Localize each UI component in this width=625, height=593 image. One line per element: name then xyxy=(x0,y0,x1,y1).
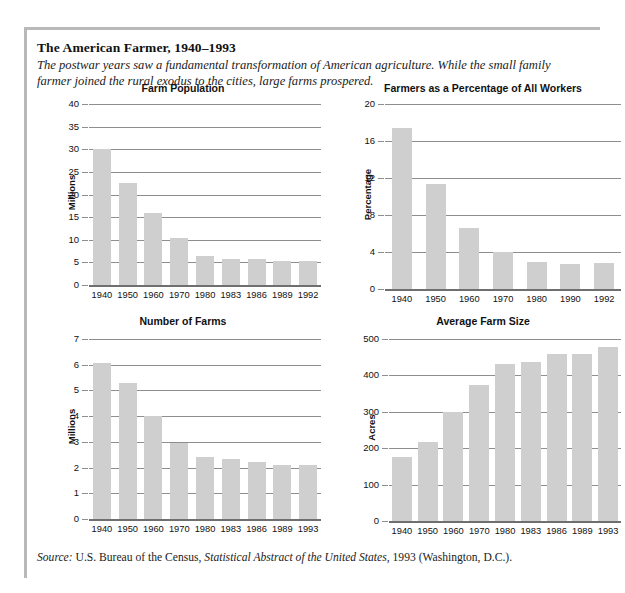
gridline xyxy=(385,141,621,142)
y-axis-tick-label: 10 xyxy=(43,235,79,245)
y-axis-tick-label: 100 xyxy=(343,480,379,490)
y-axis-tick xyxy=(82,217,88,218)
y-axis-tick xyxy=(382,448,388,449)
bar xyxy=(93,363,111,519)
y-axis-tick xyxy=(82,519,88,520)
bar xyxy=(521,362,541,521)
bar xyxy=(493,252,513,289)
y-axis-tick-label: 0 xyxy=(43,514,79,524)
bar xyxy=(248,462,266,519)
chart-average-farm-size: Average Farm Size01002003004005001940195… xyxy=(333,315,625,545)
y-axis-tick xyxy=(378,289,384,290)
bar xyxy=(273,465,291,519)
y-axis-tick xyxy=(82,127,88,128)
source-label: Source: xyxy=(37,551,73,564)
gridline xyxy=(89,127,321,128)
y-axis-tick-label: 20 xyxy=(339,99,375,109)
y-axis-tick xyxy=(82,365,88,366)
source-publisher: U.S. Bureau of the Census, xyxy=(76,551,202,564)
y-axis-tick xyxy=(82,416,88,417)
bar xyxy=(459,228,479,289)
y-axis-tick xyxy=(82,149,88,150)
chart-farm-population: Farm Population0510152025303540194019501… xyxy=(33,82,333,312)
y-axis-tick-label: 35 xyxy=(43,122,79,132)
chart-number-of-farms: Number of Farms0123456719401950196019701… xyxy=(33,315,333,545)
bar xyxy=(443,412,463,521)
bar xyxy=(418,442,438,521)
plot-area: 0100200300400500194019501960197019801983… xyxy=(389,339,621,521)
y-axis-tick xyxy=(378,252,384,253)
y-axis-tick xyxy=(82,390,88,391)
y-axis-tick xyxy=(82,468,88,469)
chart-title: Farmers as a Percentage of All Workers xyxy=(333,82,625,94)
x-axis-line xyxy=(89,519,321,521)
gridline xyxy=(385,215,621,216)
y-axis-tick xyxy=(378,104,384,105)
y-axis-tick-label: 1 xyxy=(43,488,79,498)
y-axis-tick-label: 0 xyxy=(43,280,79,290)
y-axis-tick xyxy=(82,104,88,105)
chart-title: Number of Farms xyxy=(33,315,333,327)
gridline xyxy=(389,339,621,340)
y-axis-tick xyxy=(378,141,384,142)
y-axis-tick xyxy=(82,285,88,286)
bar xyxy=(392,457,412,521)
bar xyxy=(273,261,291,285)
y-axis-tick-label: 400 xyxy=(343,370,379,380)
source-note: Source: U.S. Bureau of the Census, Stati… xyxy=(37,551,512,564)
bar xyxy=(392,128,412,289)
y-axis-tick-label: 7 xyxy=(43,334,79,344)
bar xyxy=(119,383,137,519)
x-axis-tick-label: 1993 xyxy=(592,527,624,536)
x-axis-tick-label: 1992 xyxy=(588,295,620,304)
chart-farmers-percentage: Farmers as a Percentage of All Workers04… xyxy=(333,82,625,312)
gridline xyxy=(89,339,321,340)
plot-area: 0123456719401950196019701980198319861989… xyxy=(89,339,321,519)
bar xyxy=(560,264,580,289)
bar xyxy=(196,256,214,285)
y-axis-tick xyxy=(378,215,384,216)
y-axis-tick xyxy=(82,240,88,241)
bar xyxy=(196,457,214,519)
y-axis-tick xyxy=(382,485,388,486)
bar xyxy=(426,184,446,289)
bar xyxy=(119,183,137,285)
y-axis-tick xyxy=(382,521,388,522)
gridline xyxy=(89,365,321,366)
y-axis-title: Millions xyxy=(66,162,77,222)
bar xyxy=(299,465,317,519)
plot-area: 0510152025303540194019501960197019801983… xyxy=(89,104,321,285)
bar xyxy=(299,261,317,285)
y-axis-tick xyxy=(82,339,88,340)
y-axis-tick-label: 0 xyxy=(343,516,379,526)
bar xyxy=(495,364,515,521)
y-axis-tick xyxy=(82,195,88,196)
bar xyxy=(170,238,188,285)
y-axis-title: Percentage xyxy=(362,164,373,224)
y-axis-tick-label: 4 xyxy=(339,247,375,257)
y-axis-tick xyxy=(382,375,388,376)
bar xyxy=(222,459,240,519)
bar xyxy=(93,149,111,285)
gridline xyxy=(89,172,321,173)
bar xyxy=(144,416,162,519)
bar xyxy=(222,259,240,285)
figure-panel: The American Farmer, 1940–1993 The postw… xyxy=(24,27,600,578)
x-axis-tick-label: 1992 xyxy=(292,291,324,300)
x-axis-tick-label: 1960 xyxy=(453,295,485,304)
bar xyxy=(598,347,618,521)
gridline xyxy=(89,104,321,105)
y-axis-tick-label: 16 xyxy=(339,136,375,146)
gridline xyxy=(385,178,621,179)
bar xyxy=(594,263,614,289)
y-axis-tick-label: 6 xyxy=(43,360,79,370)
y-axis-tick-label: 40 xyxy=(43,99,79,109)
y-axis-tick xyxy=(82,262,88,263)
bar xyxy=(469,385,489,522)
source-detail: 1993 (Washington, D.C.). xyxy=(393,551,513,564)
y-axis-tick-label: 5 xyxy=(43,257,79,267)
x-axis-line xyxy=(385,289,621,291)
x-axis-tick-label: 1950 xyxy=(420,295,452,304)
x-axis-tick-label: 1993 xyxy=(292,525,324,534)
charts-grid: Farm Population0510152025303540194019501… xyxy=(27,30,600,578)
